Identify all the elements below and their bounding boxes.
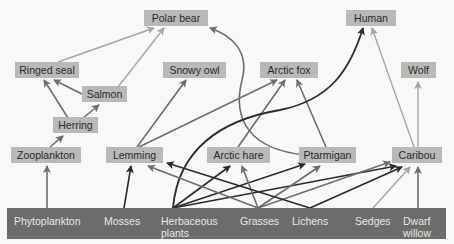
node-polar-bear: Polar bear [144, 10, 208, 26]
producer-dwarf-willow-line2: willow [403, 227, 431, 239]
producer-grasses: Grasses [240, 215, 279, 227]
producer-lichens: Lichens [292, 215, 328, 227]
node-caribou: Caribou [392, 147, 442, 163]
arrow-ptarmigan-polarbear [210, 28, 306, 155]
node-salmon: Salmon [82, 86, 127, 102]
producer-herbaceous-plants: Herbaceous plants [161, 215, 218, 239]
node-herring: Herring [53, 117, 98, 133]
node-ptarmigan: Ptarmigan [299, 147, 356, 163]
node-zooplankton: Zooplankton [11, 147, 81, 163]
node-snowy-owl: Snowy owl [163, 62, 226, 78]
producers-bar: Phytoplankton Mosses Herbaceous plants G… [7, 208, 446, 239]
producer-dwarf-willow-line1: Dwarf [403, 215, 431, 227]
node-human: Human [346, 10, 396, 26]
food-web-diagram: Polar bear Human Ringed seal Snowy owl A… [0, 0, 454, 244]
node-arctic-hare: Arctic hare [207, 147, 270, 163]
arrow-salmon-polarbear [118, 28, 164, 87]
node-wolf: Wolf [401, 62, 436, 78]
producer-herbaceous-line2: plants [161, 227, 218, 239]
arrow-caribou-human [372, 28, 414, 147]
arrow-salmon-ringedseal [54, 80, 82, 94]
producer-sedges: Sedges [355, 215, 391, 227]
arrow-mosses-lemming [124, 166, 131, 208]
arrow-ptarmigan-arcticfox [297, 80, 326, 147]
arrow-zooplankton-herring [50, 136, 63, 147]
node-arctic-fox: Arctic fox [260, 62, 318, 78]
producer-phytoplankton: Phytoplankton [14, 215, 81, 227]
node-ringed-seal: Ringed seal [15, 62, 79, 78]
arrow-ringedseal-polarbear [58, 28, 154, 62]
producer-mosses: Mosses [104, 215, 140, 227]
node-lemming: Lemming [106, 147, 163, 163]
producer-dwarf-willow: Dwarf willow [403, 215, 431, 239]
arrow-sedges-caribou [373, 167, 410, 208]
producer-herbaceous-line1: Herbaceous [161, 215, 218, 227]
